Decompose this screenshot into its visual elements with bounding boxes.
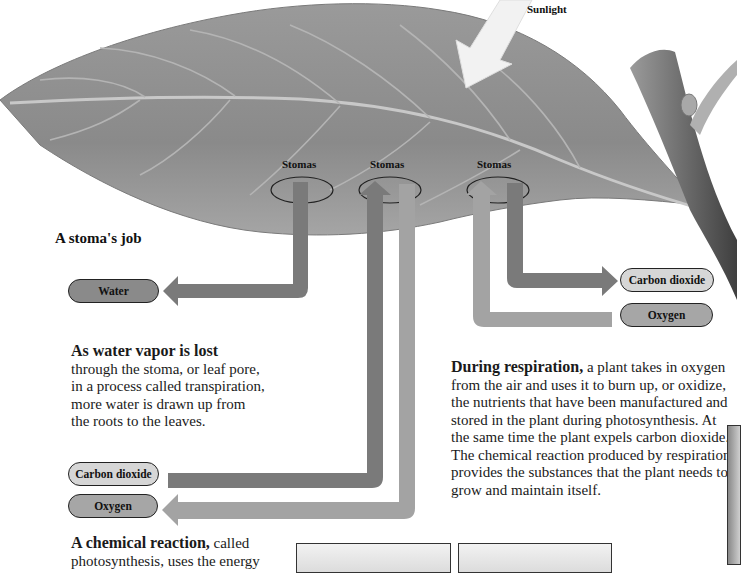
branch-shoot <box>690 60 737 135</box>
bud <box>681 94 697 116</box>
transpiration-line: through the stoma, or leaf pore, <box>71 361 260 377</box>
carbon-dioxide-pill-left: Carbon dioxide <box>68 462 159 486</box>
respiration-text: During respiration, a plant takes in oxy… <box>451 358 741 499</box>
leaf-blade <box>0 4 700 235</box>
stomas-label-2: Stomas <box>370 158 404 170</box>
respiration-line: grow and maintain itself. <box>451 482 601 498</box>
transpiration-line: more water is drawn up from <box>71 396 246 412</box>
section-heading: A stoma's job <box>55 230 142 247</box>
stomas-label-3: Stomas <box>477 158 511 170</box>
photosynthesis-rest: called <box>210 535 250 551</box>
stomas-label-1: Stomas <box>282 158 316 170</box>
carbon-dioxide-pill-right: Carbon dioxide <box>620 268 714 292</box>
respiration-line: a plant takes in oxygen <box>583 359 725 375</box>
oxygen-pill-left: Oxygen <box>68 494 158 518</box>
photosynthesis-text: A chemical reaction, called photosynthes… <box>71 534 311 570</box>
side-photo <box>727 425 741 565</box>
photosynthesis-lead: A chemical reaction, <box>71 534 210 551</box>
respiration-line: provides the substances that the plant n… <box>451 464 728 480</box>
sunlight-label: Sunlight <box>527 3 567 15</box>
photosynthesis-line: photosynthesis, uses the energy <box>71 553 260 569</box>
transpiration-line: the roots to the leaves. <box>71 413 206 429</box>
respiration-line: stored in the plant during photosynthesi… <box>451 412 716 428</box>
oxygen-pill-right: Oxygen <box>620 303 713 327</box>
water-pill: Water <box>68 279 159 303</box>
transpiration-lead: As water vapor is lost <box>71 342 218 359</box>
micrograph-photo-2 <box>458 543 612 573</box>
respiration-line: the same time the plant expels carbon di… <box>451 429 729 445</box>
respiration-lead: During respiration, <box>451 358 583 375</box>
respiration-line: from the air and uses it to burn up, or … <box>451 377 726 393</box>
transpiration-text: As water vapor is lost through the stoma… <box>71 342 311 431</box>
transpiration-line: in a process called transpiration, <box>71 378 265 394</box>
respiration-line: The chemical reaction produced by respir… <box>451 447 730 463</box>
respiration-line: the nutrients that have been manufacture… <box>451 394 728 410</box>
micrograph-photo-1 <box>296 543 451 573</box>
